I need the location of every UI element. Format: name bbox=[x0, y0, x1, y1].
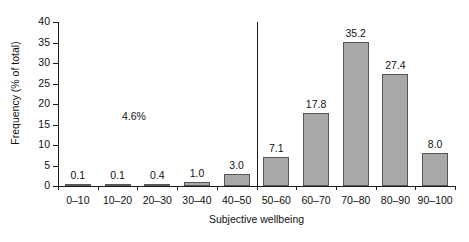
x-axis-title: Subjective wellbeing bbox=[58, 213, 455, 225]
bar bbox=[263, 157, 289, 186]
x-axis-tick bbox=[257, 186, 258, 190]
y-axis-tick-label: 5 bbox=[28, 159, 50, 171]
bar-value-label: 0.1 bbox=[98, 169, 138, 181]
bar-value-label: 7.1 bbox=[257, 142, 297, 154]
y-axis-tick: 20 bbox=[53, 104, 58, 105]
bar-value-label: 35.2 bbox=[336, 27, 376, 39]
x-axis-tick-label: 90–100 bbox=[415, 194, 455, 206]
x-axis-tick bbox=[137, 186, 138, 190]
x-axis-tick bbox=[217, 186, 218, 190]
bar-value-label: 3.0 bbox=[217, 159, 257, 171]
y-axis-tick-label: 40 bbox=[28, 15, 50, 27]
x-axis-tick bbox=[177, 186, 178, 190]
bar-value-label: 17.8 bbox=[296, 98, 336, 110]
bar bbox=[422, 153, 448, 186]
bar bbox=[184, 182, 210, 186]
x-axis-tick-label: 50–60 bbox=[257, 194, 297, 206]
chart-figure: Frequency (% of total) 0510152025303540 … bbox=[0, 0, 469, 242]
bar-value-label: 0.4 bbox=[137, 169, 177, 181]
y-axis-tick-label: 35 bbox=[28, 36, 50, 48]
bar bbox=[343, 42, 369, 186]
y-axis-tick: 40 bbox=[53, 22, 58, 23]
x-axis-tick-label: 10–20 bbox=[98, 194, 138, 206]
bar-value-label: 27.4 bbox=[376, 59, 416, 71]
bar bbox=[224, 174, 250, 186]
y-axis-tick: 5 bbox=[53, 166, 58, 167]
x-axis-tick bbox=[376, 186, 377, 190]
low-wellbeing-share-annotation: 4.6% bbox=[122, 110, 146, 122]
bar-value-label: 0.1 bbox=[58, 169, 98, 181]
bar bbox=[144, 184, 170, 186]
bar-value-label: 1.0 bbox=[177, 167, 217, 179]
x-axis-tick-label: 40–50 bbox=[217, 194, 257, 206]
x-axis-tick-label: 80–90 bbox=[376, 194, 416, 206]
x-axis-tick bbox=[455, 186, 456, 190]
y-axis-tick-label: 10 bbox=[28, 138, 50, 150]
y-axis-tick-label: 0 bbox=[28, 179, 50, 191]
x-axis-tick bbox=[415, 186, 416, 190]
x-axis-tick-label: 20–30 bbox=[137, 194, 177, 206]
x-axis-tick bbox=[336, 186, 337, 190]
x-axis-tick bbox=[296, 186, 297, 190]
y-axis-tick: 25 bbox=[53, 84, 58, 85]
x-axis-tick-label: 70–80 bbox=[336, 194, 376, 206]
y-axis-line bbox=[58, 22, 59, 186]
y-axis-tick-label: 20 bbox=[28, 97, 50, 109]
bar bbox=[382, 74, 408, 186]
y-axis-tick-label: 15 bbox=[28, 118, 50, 130]
x-axis-tick bbox=[98, 186, 99, 190]
bar bbox=[303, 113, 329, 186]
x-axis-tick-label: 60–70 bbox=[296, 194, 336, 206]
bar bbox=[65, 184, 91, 186]
x-axis-tick bbox=[58, 186, 59, 190]
x-axis-tick-label: 30–40 bbox=[177, 194, 217, 206]
y-axis-tick: 35 bbox=[53, 43, 58, 44]
bar-value-label: 8.0 bbox=[415, 138, 455, 150]
midpoint-divider-line bbox=[257, 22, 258, 186]
y-axis-title: Frequency (% of total) bbox=[6, 0, 24, 186]
y-axis-tick: 10 bbox=[53, 145, 58, 146]
plot-area: 0510152025303540 0–1010–2020–3030–4040–5… bbox=[58, 22, 455, 186]
y-axis-tick: 30 bbox=[53, 63, 58, 64]
x-axis-tick-label: 0–10 bbox=[58, 194, 98, 206]
bar bbox=[105, 184, 131, 186]
y-axis-tick-label: 25 bbox=[28, 77, 50, 89]
y-axis-tick: 15 bbox=[53, 125, 58, 126]
y-axis-tick-label: 30 bbox=[28, 56, 50, 68]
